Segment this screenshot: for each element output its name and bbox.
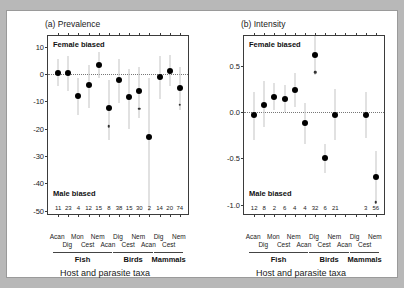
panel-a-data-point[interactable]: [86, 82, 92, 88]
panel-a-taxa-label-row1: Nem: [131, 233, 145, 240]
panel-a-y-tick-label: -30: [33, 152, 44, 161]
panel-a-x-tick-mark-top: [129, 33, 130, 36]
panel-a-x-tick-mark: [129, 214, 130, 217]
panel-a-taxa-label-row1: Nem: [91, 233, 105, 240]
panel-a-x-tick-mark-top: [58, 33, 59, 36]
panel-b-x-tick-mark: [285, 214, 286, 217]
panel-b-sample-size-label: 56: [373, 205, 380, 211]
panel-a-taxa-label-row2: Cest: [121, 241, 134, 248]
panel-b-x-tick-mark: [305, 214, 306, 217]
panel-a-y-tick-label: -10: [33, 97, 44, 106]
panel-b-x-tick-mark: [264, 214, 265, 217]
panel-a-sample-size-label: 74: [177, 205, 184, 211]
panel-a-sample-size-label: 20: [166, 205, 173, 211]
panel-b-significance-marker: [314, 71, 317, 74]
panel-b-data-point[interactable]: [271, 94, 277, 100]
panel-a-taxa-label-row2: Acan: [141, 241, 156, 248]
panel-b-x-tick-mark-top: [305, 33, 306, 36]
panel-a-female-biased-label: Female biased: [53, 40, 105, 49]
panel-a-data-point[interactable]: [136, 88, 142, 94]
panel-a-x-tick-mark: [160, 214, 161, 217]
panel-b-x-axis-title: Host and parasite taxa: [203, 268, 399, 278]
panel-b-y-tick-label: 0.0: [230, 108, 240, 117]
panel-b-group-label: Mammals: [348, 255, 382, 264]
panel-b-data-point[interactable]: [312, 52, 318, 58]
panel-b-taxa-label-row2: Cest: [317, 241, 330, 248]
panel-b-data-point[interactable]: [261, 102, 267, 108]
panel-b-x-tick-mark: [325, 214, 326, 217]
panel-b-taxa-label-row1: Mon: [267, 233, 280, 240]
panel-a-taxa-label-row1: Mon: [71, 233, 84, 240]
panel-b-y-tick-mark: [241, 205, 244, 206]
panel-b-x-tick-mark-top: [264, 33, 265, 36]
panel-a-group-underline: [53, 252, 113, 253]
panel-a-significance-marker: [138, 107, 141, 110]
panel-a-title: (a) Prevalence: [45, 19, 100, 29]
panel-a-data-point[interactable]: [126, 94, 132, 100]
panel-a-y-tick-mark: [45, 129, 48, 130]
panel-a-data-point[interactable]: [106, 105, 112, 111]
panel-a-data-point[interactable]: [177, 85, 183, 91]
panel-a-plot-frame: Female biased Male biased 100-10-20-30-4…: [47, 35, 189, 215]
panel-a-x-tick-mark-top: [160, 33, 161, 36]
panel-intensity: (b) Intensity Mean difference +/- SE Fem…: [203, 11, 399, 279]
panel-a-sample-size-label: 4: [77, 205, 80, 211]
panel-a-x-tick-mark-top: [99, 33, 100, 36]
panel-a-group-label: Birds: [124, 255, 143, 264]
panel-b-data-point[interactable]: [322, 155, 328, 161]
panel-a-x-tick-mark: [68, 214, 69, 217]
panel-a-x-tick-mark-top: [170, 33, 171, 36]
panel-b-data-point[interactable]: [282, 96, 288, 102]
panel-b-x-tick-mark-top: [274, 33, 275, 36]
panel-a-sample-size-label: 11: [55, 205, 61, 211]
panel-b-y-tick-label: -0.5: [227, 154, 240, 163]
panel-a-taxa-label-row2: Cest: [162, 241, 175, 248]
panel-b-sample-size-label: 3: [364, 205, 367, 211]
panel-b-data-point[interactable]: [363, 112, 369, 118]
panel-b-taxa-label-row1: Nem: [327, 233, 341, 240]
panel-a-x-tick-mark: [89, 214, 90, 217]
panel-b-taxa-label-row1: Nem: [368, 233, 382, 240]
panel-b-sample-size-label: 32: [312, 205, 319, 211]
panel-a-error-bar: [149, 78, 150, 210]
panel-a-data-point[interactable]: [75, 93, 81, 99]
panel-b-taxa-label-row2: Acan: [337, 241, 352, 248]
panel-a-x-tick-mark: [99, 214, 100, 217]
panel-a-y-tick-mark: [45, 156, 48, 157]
panel-a-data-point[interactable]: [116, 77, 122, 83]
panel-a-sample-size-label: 2: [148, 205, 151, 211]
panel-a-y-tick-label: -50: [33, 206, 44, 215]
panel-b-taxa-label-row1: Dig: [350, 233, 360, 240]
panel-a-data-point[interactable]: [167, 68, 173, 74]
panel-a-data-point[interactable]: [157, 74, 163, 80]
panel-a-data-point[interactable]: [146, 134, 152, 140]
panel-a-data-point[interactable]: [96, 62, 102, 68]
panel-a-y-tick-label: -20: [33, 124, 44, 133]
panel-a-group-label: Mammals: [152, 255, 186, 264]
panel-a-sample-size-label: 15: [126, 205, 133, 211]
panel-a-taxa-label-row1: Nem: [172, 233, 186, 240]
panel-b-data-point[interactable]: [292, 87, 298, 93]
panel-b-x-tick-mark-top: [325, 33, 326, 36]
panel-b-data-point[interactable]: [302, 120, 308, 126]
panel-b-taxa-label-row1: Dig: [309, 233, 319, 240]
panel-a-y-tick-label: 10: [36, 42, 44, 51]
panel-a-data-point[interactable]: [65, 70, 71, 76]
panel-b-sample-size-label: 4: [293, 205, 296, 211]
panel-b-data-point[interactable]: [332, 112, 338, 118]
panel-b-male-biased-label: Male biased: [249, 189, 292, 198]
panel-b-significance-marker: [375, 201, 378, 204]
panel-b-data-point[interactable]: [251, 112, 257, 118]
panel-b-taxa-label-row2: Acan: [296, 241, 311, 248]
panel-b-female-biased-label: Female biased: [249, 40, 301, 49]
panel-a-sample-size-label: 14: [156, 205, 163, 211]
panel-b-x-tick-mark: [356, 214, 357, 217]
panel-b-data-point[interactable]: [373, 174, 379, 180]
panel-b-sample-size-label: 4: [303, 205, 306, 211]
panel-a-group-underline: [113, 252, 153, 253]
panel-b-plot-frame: Female biased Male biased 0.50.0-0.5-1.0…: [243, 35, 385, 215]
panel-b-x-tick-mark-top: [345, 33, 346, 36]
panel-b-group-label: Birds: [320, 255, 339, 264]
panel-a-x-tick-mark-top: [109, 33, 110, 36]
panel-a-data-point[interactable]: [55, 70, 61, 76]
